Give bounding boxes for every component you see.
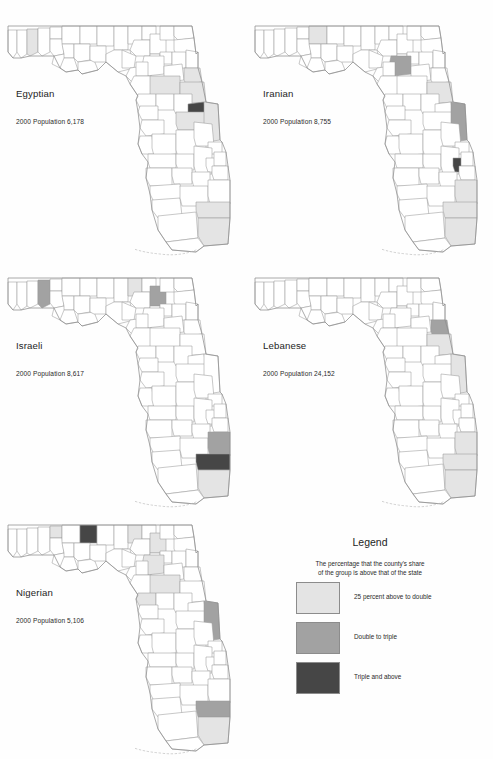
county-martinco: [212, 418, 228, 432]
county-flagler: [431, 68, 449, 84]
county-stlucie: [461, 152, 473, 166]
county-holmes: [50, 279, 62, 291]
legend-item-light[interactable]: 25 percent above to double: [296, 582, 493, 616]
county-nassau: [421, 26, 441, 40]
county-palmbeach: [455, 180, 477, 204]
county-stlucie: [214, 404, 226, 418]
county-jackson: [309, 26, 327, 44]
county-pasco: [387, 120, 411, 136]
county-holmes: [50, 27, 62, 39]
legend-item-mid[interactable]: Double to triple: [296, 622, 493, 656]
county-jackson: [62, 26, 80, 44]
county-sumter: [403, 346, 421, 362]
county-okaloosa: [27, 281, 38, 308]
county-hernando: [138, 358, 158, 372]
county-flagler: [184, 68, 202, 84]
county-collier: [158, 711, 198, 741]
legend-item-dark[interactable]: Triple and above: [296, 662, 493, 696]
county-leon: [97, 26, 114, 46]
county-flagler: [184, 567, 202, 583]
county-holmes: [297, 27, 309, 39]
county-sumter: [156, 593, 174, 609]
county-desoto: [172, 667, 192, 683]
county-miamidade: [198, 470, 230, 498]
county-gadsden: [80, 525, 97, 543]
county-gilchrist: [383, 314, 395, 328]
county-stlucie: [214, 651, 226, 665]
county-walton: [38, 28, 50, 56]
county-walton: [38, 280, 50, 308]
county-pinellas: [385, 136, 401, 154]
county-jefferson: [114, 525, 128, 549]
panel-population: 2000 Population 24,152: [263, 370, 335, 377]
county-manatee: [395, 154, 423, 168]
county-gadsden: [80, 26, 97, 44]
legend-subtitle-line-1: The percentage that the county's share: [247, 559, 493, 568]
county-walton: [285, 28, 297, 56]
county-baker: [160, 525, 174, 539]
legend-swatch-light: [296, 582, 340, 614]
county-layer: [0, 505, 246, 757]
county-wakulla: [90, 298, 106, 314]
county-miamidade: [198, 218, 230, 246]
county-layer: [247, 6, 493, 258]
county-wakulla: [90, 46, 106, 62]
panel-iranian: Iranian 2000 Population 8,755: [247, 6, 493, 258]
county-martinco: [459, 166, 475, 180]
county-gadsden: [80, 278, 97, 296]
county-pasco: [140, 619, 164, 635]
county-hernando: [385, 106, 405, 120]
florida-map-israeli[interactable]: [0, 258, 246, 510]
county-okaloosa: [27, 29, 38, 56]
legend-label-light: 25 percent above to double: [354, 593, 431, 600]
county-glades: [192, 424, 210, 440]
county-hillsborough: [152, 134, 176, 156]
panel-population: 2000 Population 5,106: [16, 617, 84, 624]
florida-map-nigerian[interactable]: [0, 505, 246, 757]
county-santarosa: [17, 30, 27, 58]
county-liberty: [74, 543, 90, 561]
county-walton: [285, 280, 297, 308]
county-sumter: [156, 94, 174, 110]
county-palmbeach: [208, 432, 230, 456]
county-hardee: [423, 154, 441, 170]
county-hillsborough: [152, 386, 176, 408]
county-gadsden: [327, 26, 344, 44]
county-stlucie: [214, 152, 226, 166]
panel-title: Israeli: [16, 340, 43, 351]
county-broward: [443, 202, 477, 218]
county-leon: [344, 26, 361, 46]
county-manatee: [148, 406, 176, 420]
county-hernando: [138, 106, 158, 120]
panel-lebanese: Lebanese 2000 Population 24,152: [247, 258, 493, 510]
florida-map-iranian[interactable]: [247, 6, 493, 258]
county-hernando: [385, 358, 405, 372]
county-suwannee: [130, 539, 150, 555]
county-walton: [38, 527, 50, 555]
county-desoto: [172, 420, 192, 436]
county-broward: [196, 454, 230, 470]
county-flagler: [184, 320, 202, 336]
county-santarosa: [264, 30, 274, 58]
county-nassau: [174, 525, 194, 539]
county-layer: [0, 6, 246, 258]
county-gilchrist: [136, 62, 148, 76]
county-desoto: [172, 168, 192, 184]
legend-subtitle: The percentage that the county's share o…: [247, 559, 493, 577]
county-wakulla: [337, 46, 353, 62]
county-martinco: [212, 665, 228, 679]
florida-map-egyptian[interactable]: [0, 6, 246, 258]
county-stlucie: [461, 404, 473, 418]
county-sumter: [156, 346, 174, 362]
county-palmbeach: [208, 679, 230, 703]
county-desoto: [419, 420, 439, 436]
county-collier: [405, 212, 445, 242]
panel-title: Iranian: [263, 88, 293, 99]
florida-map-lebanese[interactable]: [247, 258, 493, 510]
county-hernando: [138, 605, 158, 619]
county-sarasota: [393, 168, 419, 186]
county-nassau: [174, 26, 194, 40]
county-collier: [158, 212, 198, 242]
county-pinellas: [138, 136, 154, 154]
county-calhoun: [62, 44, 74, 58]
